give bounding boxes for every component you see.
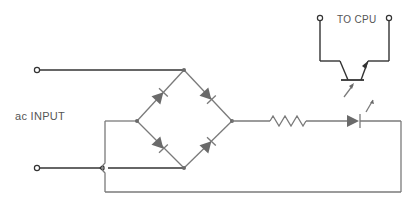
node-bottom — [182, 166, 186, 170]
node-top — [182, 68, 186, 72]
terminal-ac-input-top — [34, 67, 39, 72]
terminal-cpu-left — [317, 15, 322, 20]
node-left — [135, 119, 139, 123]
ac-input-bottom-wire — [34, 165, 184, 170]
terminal-cpu-right — [386, 15, 391, 20]
led-icon — [347, 100, 374, 128]
resistor-icon — [270, 116, 306, 126]
diode-d3-icon — [152, 137, 168, 153]
terminal-ac-input-bottom — [34, 165, 39, 170]
optocoupler-circuit-diagram — [0, 0, 415, 204]
to-cpu-label: TO CPU — [337, 14, 376, 25]
phototransistor-icon — [317, 15, 391, 97]
bridge-rectifier — [135, 68, 234, 170]
ac-input-label: ac INPUT — [15, 110, 65, 122]
ac-input-top-wire — [34, 67, 184, 72]
wire-crossover-hop — [102, 121, 105, 192]
